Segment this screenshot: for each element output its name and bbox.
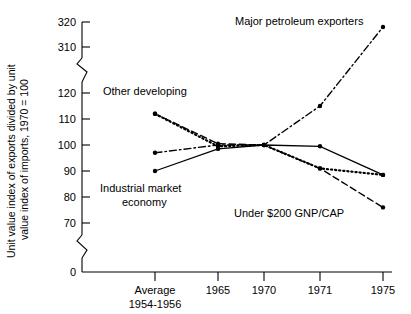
series-major-petroleum-exporters[interactable] bbox=[153, 25, 385, 155]
y-axis: 320 310 120 110 100 90 80 70 0 bbox=[58, 16, 90, 278]
series-group bbox=[153, 25, 385, 210]
y-axis-break-lower bbox=[77, 235, 87, 258]
series-line-under-200-gnp-cap[interactable] bbox=[155, 114, 383, 208]
data-point bbox=[262, 143, 266, 147]
data-point bbox=[381, 205, 385, 209]
annotation-under-200-gnp-cap: Under $200 GNP/CAP bbox=[234, 207, 344, 219]
chart-container: Unit value index of exports divided by u… bbox=[0, 0, 411, 314]
annotation-other-developing: Other developing bbox=[103, 85, 187, 97]
series-line-other-developing[interactable] bbox=[155, 114, 383, 175]
series-other-developing[interactable] bbox=[153, 112, 385, 177]
data-point bbox=[153, 169, 157, 173]
y-tick-label-70: 70 bbox=[64, 217, 76, 229]
x-tick-label-1970: 1970 bbox=[252, 284, 276, 296]
y-tick-label-110: 110 bbox=[58, 113, 76, 125]
data-point bbox=[153, 151, 157, 155]
series-line-major-petroleum-exporters[interactable] bbox=[155, 27, 383, 153]
y-axis-break-upper bbox=[77, 58, 87, 82]
x-tick-label-1965: 1965 bbox=[206, 284, 230, 296]
x-tick-label-average: Average bbox=[135, 284, 176, 296]
y-axis-title-line2: value index of imports, 1970 = 100 bbox=[18, 79, 30, 240]
y-tick-label-0: 0 bbox=[70, 266, 76, 278]
data-point bbox=[216, 143, 220, 147]
x-tick-sublabel-average: 1954-1956 bbox=[129, 298, 182, 310]
series-markers-major-petroleum-exporters bbox=[153, 25, 385, 155]
annotation-industrial-market-line1: Industrial market bbox=[100, 182, 181, 194]
y-axis-title-line1: Unit value index of exports divided by u… bbox=[5, 64, 17, 258]
series-markers-other-developing bbox=[153, 112, 385, 177]
y-tick-label-320: 320 bbox=[58, 16, 76, 28]
x-tick-label-1975: 1975 bbox=[371, 284, 395, 296]
annotation-major-petroleum-exporters: Major petroleum exporters bbox=[235, 15, 364, 27]
data-point bbox=[318, 144, 322, 148]
y-axis-title: Unit value index of exports divided by u… bbox=[5, 64, 30, 258]
data-point bbox=[153, 112, 157, 116]
x-tick-label-1971: 1971 bbox=[308, 284, 332, 296]
x-axis: Average 1954-1956 1965 1970 1971 1975 bbox=[82, 272, 395, 310]
line-chart: Unit value index of exports divided by u… bbox=[0, 0, 411, 314]
data-point bbox=[318, 104, 322, 108]
data-point bbox=[381, 25, 385, 29]
y-tick-label-100: 100 bbox=[58, 139, 76, 151]
y-tick-label-80: 80 bbox=[64, 191, 76, 203]
y-tick-label-90: 90 bbox=[64, 165, 76, 177]
annotation-industrial-market-line2: economy bbox=[122, 196, 167, 208]
data-point bbox=[318, 166, 322, 170]
y-tick-label-120: 120 bbox=[58, 87, 76, 99]
annotations: Other developing Industrial market econo… bbox=[100, 15, 364, 219]
data-point bbox=[381, 173, 385, 177]
y-tick-label-310: 310 bbox=[58, 41, 76, 53]
